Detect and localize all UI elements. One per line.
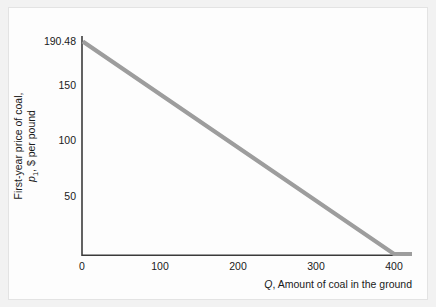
x-tick-label-200: 200 (229, 260, 247, 272)
y-tick-label-190-48: 190.48 (44, 35, 76, 47)
line-chart: 190.48 150 100 50 0 100 200 300 400 Q, A… (0, 0, 436, 307)
x-tick-label-400: 400 (385, 260, 403, 272)
x-tick-label-100: 100 (151, 260, 169, 272)
y-tick-label-50: 50 (64, 190, 76, 202)
x-tick-label-0: 0 (79, 260, 85, 272)
price-line-series (83, 42, 412, 255)
y-axis-title-line1: First-year price of coal, (12, 93, 24, 200)
y-axis-title-text: , $ per pound (25, 110, 37, 172)
chart-figure: 190.48 150 100 50 0 100 200 300 400 Q, A… (0, 0, 436, 307)
y-axis-title-line2: p1, $ per pound (25, 110, 40, 183)
y-tick-label-100: 100 (58, 134, 76, 146)
y-tick-label-150: 150 (58, 79, 76, 91)
x-axis-title-symbol: Q (264, 278, 272, 290)
x-axis-title-text: , Amount of coal in the ground (272, 278, 412, 290)
y-axis-title: First-year price of coal, p1, $ per poun… (12, 93, 40, 200)
x-tick-label-300: 300 (307, 260, 325, 272)
x-axis-title: Q, Amount of coal in the ground (264, 278, 412, 290)
